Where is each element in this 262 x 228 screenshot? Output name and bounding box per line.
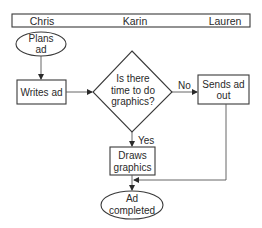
decision-node-time-for-graphics: Is there time to do graphics? (93, 51, 172, 132)
write-label: Writes ad (20, 87, 62, 98)
lane-label-chris: Chris (30, 15, 55, 27)
flowchart-diagram: Chris Karin Lauren Plans ad Writes ad Is… (0, 0, 262, 228)
lane-label-karin: Karin (123, 15, 148, 27)
swimlane-header: Chris Karin Lauren (12, 14, 250, 27)
lane-label-lauren: Lauren (209, 15, 242, 27)
start-label-line-2: ad (35, 44, 46, 55)
process-node-sends-ad-out: Sends ad out (198, 75, 249, 104)
end-label-line-1: Ad (126, 193, 138, 204)
end-label-line-2: completed (109, 205, 155, 216)
decision-label-line-3: graphics? (111, 96, 155, 107)
send-label-line-1: Sends ad (202, 79, 244, 90)
process-node-draws-graphics: Draws graphics (110, 147, 155, 175)
decision-label-line-1: Is there (116, 73, 150, 84)
edge-label-yes: Yes (138, 135, 154, 146)
draw-label-line-1: Draws (118, 150, 146, 161)
send-label-line-2: out (217, 90, 231, 101)
draw-label-line-2: graphics (114, 162, 152, 173)
start-node-plans-ad: Plans ad (16, 32, 66, 56)
start-label-line-1: Plans (28, 33, 53, 44)
process-node-writes-ad: Writes ad (17, 80, 66, 104)
edge-label-no: No (178, 80, 191, 91)
end-node-ad-completed: Ad completed (101, 191, 163, 219)
decision-label-line-2: time to do (111, 85, 155, 96)
